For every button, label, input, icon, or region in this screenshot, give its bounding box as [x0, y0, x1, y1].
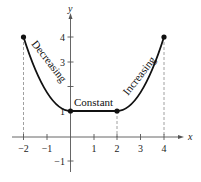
point-marker — [68, 108, 73, 113]
y-tick-label: −1 — [54, 156, 65, 167]
point-marker — [161, 34, 166, 39]
y-axis — [68, 18, 74, 172]
chart: −2 −1 1 2 3 4 4 3 1 −1 x y Decreasing Co… — [0, 0, 201, 182]
y-tick-label: 4 — [60, 32, 65, 43]
point-marker — [21, 34, 26, 39]
x-tick-label: 1 — [92, 143, 97, 154]
x-tick-label: −2 — [18, 143, 29, 154]
x-tick-label: 4 — [162, 143, 167, 154]
x-tick-label: 3 — [138, 143, 143, 154]
x-tick-label: −1 — [42, 143, 53, 154]
x-axis-arrow-icon — [178, 135, 184, 139]
annotation-constant: Constant — [74, 96, 113, 108]
x-tick-label: 2 — [115, 143, 120, 154]
x-axis — [12, 134, 180, 140]
point-marker — [114, 108, 119, 113]
annotation-increasing: Increasing — [120, 53, 158, 97]
x-axis-label: x — [187, 131, 193, 142]
y-axis-label: y — [67, 3, 73, 14]
